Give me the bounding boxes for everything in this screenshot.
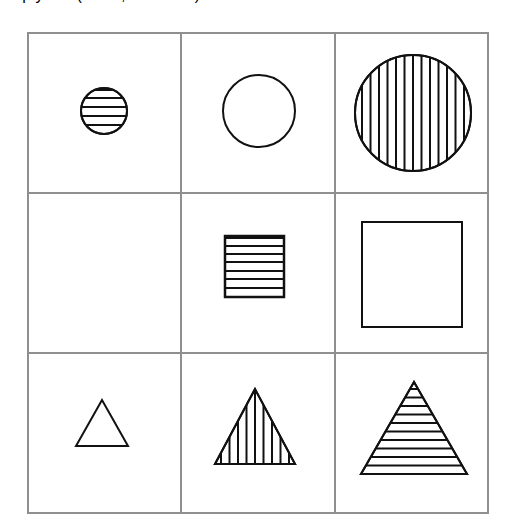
cell-r1-c1-small-striped-circle: [78, 88, 130, 134]
cell-r2-c1-empty: empty cell (row 2, column 1): [0, 0, 200, 351]
cell-r1-c2-medium-circle: [223, 75, 295, 147]
missing-cell-label: empty cell (row 2, column 1): [0, 0, 200, 3]
shape-matrix-puzzle: empty cell (row 2, column 1): [0, 0, 520, 532]
cell-r1-c3-large-vertical-striped-circle: [355, 50, 471, 176]
cell-r3-c2-medium-vertical-striped-triangle: [215, 385, 295, 466]
cell-r2-c2-small-striped-square: [225, 236, 284, 297]
cell-r3-c3-large-striped-triangle: [355, 382, 475, 474]
cell-r2-c3-large-square: [362, 222, 462, 327]
cell-r3-c1-small-triangle: [76, 400, 128, 446]
